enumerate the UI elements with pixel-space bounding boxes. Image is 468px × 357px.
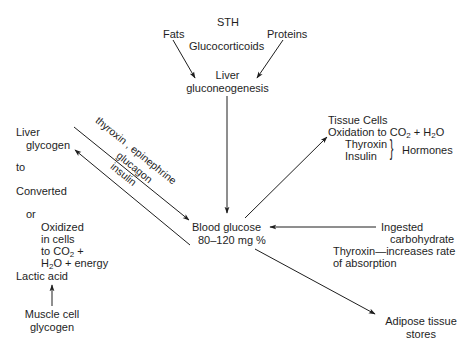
liver-gluconeogenesis-line1: Liver [180,69,275,82]
muscle-cell-glycogen-node: Muscle cell glycogen [20,308,84,334]
blood-glucose-line2: 80–120 mg % [198,234,266,247]
insulin-label: Insulin [345,150,377,163]
muscle-line2: glycogen [20,321,84,334]
text-o: O [436,126,445,138]
text-h: H [41,257,49,269]
text-o-energy: O + energy [53,257,108,269]
ingested-line4: of absorption [333,257,397,270]
adipose-tissue-node: Adipose tissue stores [378,315,464,341]
or-label: or [26,208,36,221]
lactic-acid-label: Lactic acid [16,270,68,283]
brace-icon: } [390,137,394,159]
blood-glucose-line1: Blood glucose [192,221,261,234]
liver-glycogen-line2: glycogen [26,139,70,152]
text-to-co: to CO [41,245,70,257]
adipose-line2: stores [378,328,464,341]
muscle-line1: Muscle cell [20,308,84,321]
arrow-layer [0,0,468,357]
converted-label: Converted [16,185,67,198]
arrow-blood-to-tissue [245,137,327,218]
liver-gluconeogenesis-node: Liver gluconeogenesis [180,69,275,95]
glucocorticoids-label: Glucocorticoids [189,40,264,53]
to-label: to [16,161,25,174]
text-plus-h: + H [411,126,431,138]
sth-label: STH [217,16,239,29]
fats-label: Fats [163,28,184,41]
adipose-line1: Adipose tissue [378,315,464,328]
liver-gluconeogenesis-line2: gluconeogenesis [180,82,275,95]
hormones-label: Hormones [402,144,453,157]
text-plus: + [74,245,83,257]
proteins-label: Proteins [267,28,307,41]
oxidized-line4: H2O + energy [41,257,108,270]
liver-glycogen-line1: Liver [16,126,40,139]
text-oxidation-to-co: Oxidation to CO [328,126,406,138]
